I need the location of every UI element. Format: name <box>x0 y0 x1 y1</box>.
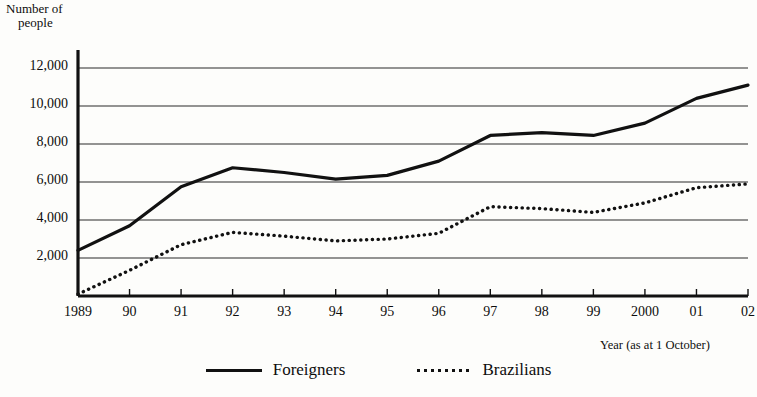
y-axis-tick-label: 6,000 <box>37 172 69 188</box>
legend-swatch-dotted-line-icon <box>415 369 471 372</box>
x-axis-tick-label: 02 <box>718 304 757 320</box>
y-axis-tick-label: 2,000 <box>37 248 69 264</box>
gridlines <box>78 68 748 258</box>
legend-item-foreigners: Foreigners <box>206 360 346 380</box>
data-series-layer <box>78 85 748 294</box>
legend-label-foreigners: Foreigners <box>273 360 346 380</box>
legend-swatch-solid-line-icon <box>206 369 262 372</box>
line-chart <box>0 0 757 397</box>
series-line-foreigners <box>78 85 748 250</box>
y-axis-tick-label: 10,000 <box>30 96 69 112</box>
chart-legend: Foreigners Brazilians <box>0 360 757 380</box>
legend-item-brazilians: Brazilians <box>415 360 551 380</box>
y-axis-tick-label: 4,000 <box>37 210 69 226</box>
y-axis-tick-label: 8,000 <box>37 134 69 150</box>
series-line-brazilians <box>78 184 748 294</box>
y-axis-tick-label: 12,000 <box>30 58 69 74</box>
legend-label-brazilians: Brazilians <box>482 360 551 380</box>
